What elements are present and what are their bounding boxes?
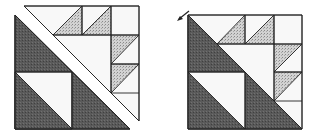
quilt-diagram <box>0 0 315 140</box>
arrow-icon <box>177 11 189 21</box>
separated-pieces <box>15 6 139 129</box>
assembled-block <box>188 15 302 129</box>
